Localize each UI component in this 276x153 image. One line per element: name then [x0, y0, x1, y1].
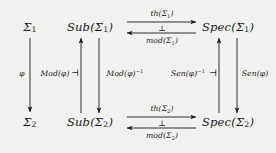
adjoint-symbol-left: ⊣ [71, 68, 79, 78]
edge-label-sen-phi: Sen(φ) [242, 69, 268, 78]
adjoint-symbol-right: ⊣ [209, 68, 217, 78]
node-sigma-1: Σ1 [23, 20, 37, 35]
edge-label-mod-phi-inverse: Mod(φ)−1 [107, 68, 144, 77]
edge-label-phi: φ [19, 69, 24, 78]
commutative-diagram: Σ1 Sub(Σ1) Spec(Σ1) Σ2 Sub(Σ2) Spec(Σ2) … [0, 0, 276, 153]
edge-label-th-sigma-1: th(Σ1) [150, 9, 173, 18]
edge-label-mod-phi: Mod(φ) [40, 69, 69, 78]
node-sigma-2: Σ2 [23, 115, 37, 130]
adjunction-symbol-bottom: ⊥ [158, 118, 166, 127]
node-sub-sigma-2: Sub(Σ2) [67, 115, 113, 130]
adjunction-symbol-top: ⊥ [158, 23, 166, 32]
node-sub-sigma-1: Sub(Σ1) [67, 20, 113, 35]
edge-label-mod-sigma-1: mod(Σ1) [146, 36, 178, 45]
node-spec-sigma-1: Spec(Σ1) [202, 20, 254, 35]
node-spec-sigma-2: Spec(Σ2) [202, 115, 254, 130]
edge-label-th-sigma-2: th(Σ2) [150, 104, 173, 113]
edge-label-mod-sigma-2: mod(Σ2) [146, 131, 178, 140]
edge-label-sen-phi-inverse: Sen(φ)−1 [171, 68, 205, 77]
